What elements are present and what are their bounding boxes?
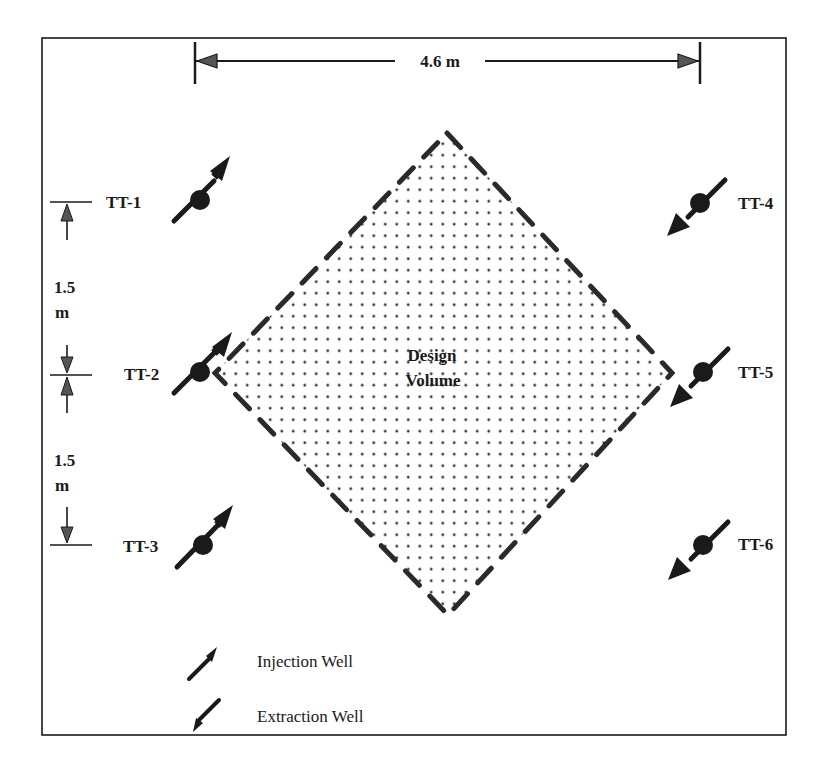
dimension-arrowhead-right-icon [678, 54, 698, 68]
design-volume-label-line2: Volume [405, 371, 461, 390]
dimension-arrow-up-icon [61, 204, 73, 221]
vertical-dimension-label-1: 1.5 [54, 278, 75, 297]
injection-arrow-icon [189, 658, 210, 679]
legend-item-extraction: Extraction Well [193, 700, 364, 732]
dimension-arrow-down-icon [61, 527, 73, 543]
well-label-tt-1: TT-1 [106, 193, 141, 212]
well-layout-diagram: 4.6 m 1.5 m 1.5 m Design Volume [0, 0, 823, 769]
legend-label-extraction: Extraction Well [257, 707, 364, 726]
well-label-tt-2: TT-2 [124, 365, 159, 384]
vertical-dimension-label-2: 1.5 [54, 451, 75, 470]
dimension-arrow-up-icon [61, 377, 73, 395]
well-marker-icon [190, 362, 210, 382]
well-tt-1 [174, 156, 230, 221]
dimension-arrowhead-left-icon [197, 54, 217, 68]
well-label-tt-3: TT-3 [123, 537, 158, 556]
well-label-tt-6: TT-6 [738, 535, 773, 554]
well-tt-3 [177, 505, 233, 567]
design-volume-label-line1: Design [407, 346, 457, 365]
design-volume: Design Volume [215, 133, 672, 615]
well-tt-6 [668, 522, 728, 580]
vertical-dimension-unit-1: m [55, 303, 69, 322]
well-tt-5 [670, 349, 728, 407]
dimension-arrow-down-icon [61, 357, 73, 373]
horizontal-dimension: 4.6 m [195, 42, 700, 84]
well-marker-icon [690, 193, 710, 213]
legend-label-injection: Injection Well [257, 652, 353, 671]
extraction-arrow-icon [668, 557, 691, 580]
legend-item-injection: Injection Well [189, 647, 353, 679]
well-marker-icon [193, 535, 213, 555]
well-marker-icon [693, 535, 713, 555]
well-label-tt-4: TT-4 [738, 194, 774, 213]
well-marker-icon [693, 362, 713, 382]
well-marker-icon [190, 190, 210, 210]
horizontal-dimension-label: 4.6 m [420, 52, 460, 71]
extraction-arrow-icon [199, 700, 219, 720]
legend: Injection Well Extraction Well [189, 647, 364, 732]
well-label-tt-5: TT-5 [738, 363, 773, 382]
well-tt-4 [667, 180, 725, 236]
vertical-dimension: 1.5 m 1.5 m [50, 202, 92, 545]
vertical-dimension-unit-2: m [55, 476, 69, 495]
